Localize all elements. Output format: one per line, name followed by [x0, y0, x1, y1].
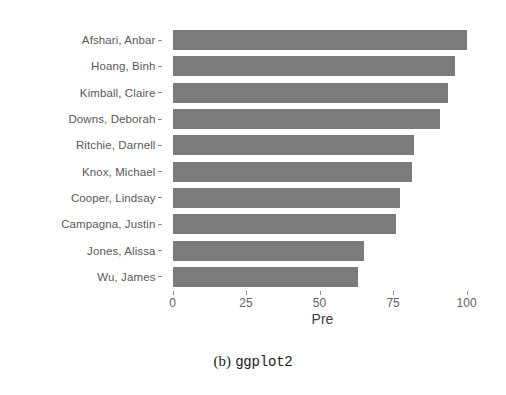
bar	[173, 267, 358, 287]
y-axis-tick-8: Jones, Alissa	[10, 237, 162, 263]
caption-label: ggplot2	[235, 354, 292, 370]
x-axis-tick-label: 0	[169, 296, 176, 310]
x-axis-tick-mark-icon	[173, 291, 174, 295]
bar-row	[173, 80, 493, 106]
x-axis-tick-label: 25	[239, 296, 252, 310]
bar	[173, 241, 364, 261]
bar-row	[173, 27, 493, 53]
y-axis-tick-1: Hoang, Binh	[10, 53, 162, 79]
y-axis-tick-mark-icon	[158, 92, 162, 93]
figure: Afshari, Anbar Hoang, Binh Kimball, Clai…	[0, 0, 506, 395]
y-axis-tick-5: Knox, Michael	[10, 158, 162, 184]
y-axis-tick-2: Kimball, Claire	[10, 80, 162, 106]
y-axis-tick-mark-icon	[158, 40, 162, 41]
x-axis-tick-mark-icon	[246, 291, 247, 295]
y-axis-tick-3: Downs, Deborah	[10, 106, 162, 132]
bar	[173, 30, 467, 50]
bar	[173, 214, 397, 234]
x-axis-tick-label: 100	[457, 296, 477, 310]
y-axis-tick-mark-icon	[158, 197, 162, 198]
bar-row	[173, 211, 493, 237]
bar-row	[173, 158, 493, 184]
bar-series	[173, 27, 493, 290]
caption-index: (b)	[213, 353, 231, 369]
y-axis-tick-label: Campagna, Justin	[61, 218, 155, 230]
y-axis-tick-label: Knox, Michael	[82, 166, 156, 178]
y-axis-category-labels: Afshari, Anbar Hoang, Binh Kimball, Clai…	[10, 27, 162, 290]
bar	[173, 83, 448, 103]
bar-row	[173, 132, 493, 158]
y-axis-tick-mark-icon	[158, 171, 162, 172]
y-axis-tick-mark-icon	[158, 276, 162, 277]
bar	[173, 56, 455, 76]
bar-row	[173, 106, 493, 132]
bar	[173, 135, 414, 155]
y-axis-tick-mark-icon	[158, 66, 162, 67]
y-axis-tick-0: Afshari, Anbar	[10, 27, 162, 53]
y-axis-tick-label: Downs, Deborah	[68, 113, 155, 125]
y-axis-tick-4: Ritchie, Darnell	[10, 132, 162, 158]
figure-caption: (b) ggplot2	[0, 352, 506, 370]
bar-row	[173, 237, 493, 263]
y-axis-tick-label: Jones, Alissa	[87, 245, 155, 257]
bar	[173, 109, 441, 129]
plot-panel: Afshari, Anbar Hoang, Binh Kimball, Clai…	[0, 0, 506, 340]
x-axis-tick-label: 50	[313, 296, 326, 310]
y-axis-tick-label: Afshari, Anbar	[82, 34, 156, 46]
y-axis-tick-label: Ritchie, Darnell	[76, 139, 156, 151]
y-axis-tick-label: Cooper, Lindsay	[71, 192, 156, 204]
y-axis-tick-mark-icon	[158, 145, 162, 146]
x-axis-tick-label: 75	[386, 296, 399, 310]
bar-row	[173, 185, 493, 211]
y-axis-tick-label: Kimball, Claire	[80, 87, 156, 99]
y-axis-tick-6: Cooper, Lindsay	[10, 185, 162, 211]
bar	[173, 188, 401, 208]
y-axis-tick-label: Wu, James	[97, 271, 155, 283]
y-axis-tick-mark-icon	[158, 224, 162, 225]
x-axis-tick-mark-icon	[320, 291, 321, 295]
y-axis-tick-9: Wu, James	[10, 264, 162, 290]
y-axis-tick-mark-icon	[158, 119, 162, 120]
x-axis-tick-mark-icon	[393, 291, 394, 295]
y-axis-tick-mark-icon	[158, 250, 162, 251]
y-axis-tick-7: Campagna, Justin	[10, 211, 162, 237]
bar-row	[173, 53, 493, 79]
bar-row	[173, 264, 493, 290]
y-axis-tick-label: Hoang, Binh	[91, 60, 155, 72]
x-axis-tick-mark-icon	[467, 291, 468, 295]
bar	[173, 162, 413, 182]
x-axis-title: Pre	[173, 311, 473, 327]
